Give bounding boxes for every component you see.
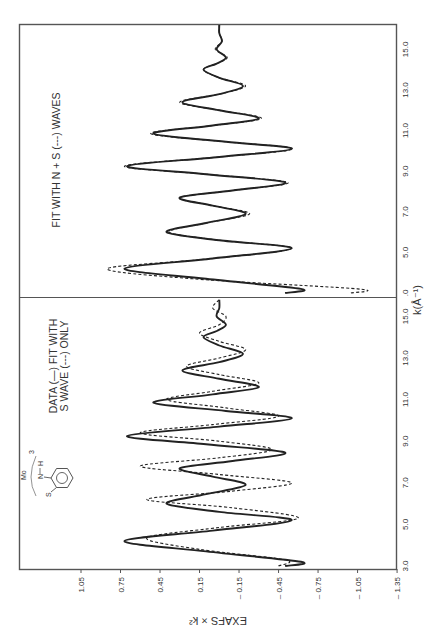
y-tick-label: – 1.05 (354, 576, 363, 599)
x-tick-label: 5.0 (401, 518, 410, 530)
atom-h: H (37, 461, 44, 466)
x-tick-label: 15.0 (401, 41, 410, 57)
x-tick-label: 13.0 (401, 350, 410, 366)
x-tick-label: 5.0 (401, 246, 410, 258)
lower-annotation-line2: S WAVE (---) ONLY (58, 321, 70, 412)
y-tick-label: 0.15 (196, 576, 205, 592)
fit-curve-dashed (107, 25, 368, 293)
atom-s: S (45, 492, 52, 497)
atom-n: N (37, 474, 44, 479)
subscript-3: 3 (28, 450, 35, 454)
x-tick-label: 15.0 (401, 308, 410, 324)
y-tick-label: – 1.35 (393, 576, 402, 599)
x-tick-label: 7.0 (401, 206, 410, 218)
x-tick-label: 9.0 (401, 435, 410, 447)
x-axis-ticks: 3.05.07.09.011.013.015.0.05.07.09.011.01… (401, 41, 410, 571)
y-axis-ticks: 1.050.750.450.15– 0.15– 0.45– 0.75– 1.05… (77, 569, 402, 599)
fit-curve-dashed (140, 300, 298, 566)
y-tick-label: – 0.45 (275, 576, 284, 599)
atom-mo: Mo (20, 470, 27, 480)
y-tick-label: – 0.75 (314, 576, 323, 599)
molecule-structure-icon: S N H Mo 3 (20, 450, 73, 497)
y-tick-label: 0.45 (156, 576, 165, 592)
x-tick-label: 11.0 (401, 123, 410, 139)
x-tick-label: 9.0 (401, 165, 410, 177)
x-tick-label: 13.0 (401, 82, 410, 98)
x-tick-label: 7.0 (401, 477, 410, 489)
upper-annotation: FIT WITH N + S (---) WAVES (50, 93, 62, 228)
lower-panel-curves (124, 300, 304, 566)
x-axis-label: k(Å⁻¹) (411, 285, 423, 315)
data-curve-solid (124, 300, 304, 566)
data-curve-solid (124, 25, 304, 293)
x-tick-label: .0 (401, 289, 410, 296)
x-tick-label: 11.0 (401, 392, 410, 408)
y-tick-label: – 0.15 (235, 576, 244, 599)
y-axis-label: EXAFS × k² (189, 615, 247, 627)
upper-panel-curves (107, 25, 368, 293)
y-tick-label: 0.75 (117, 576, 126, 592)
x-tick-label: 3.0 (401, 560, 410, 572)
exafs-figure: 1.050.750.450.15– 0.15– 0.45– 0.75– 1.05… (0, 0, 431, 632)
y-tick-label: 1.05 (77, 576, 86, 592)
